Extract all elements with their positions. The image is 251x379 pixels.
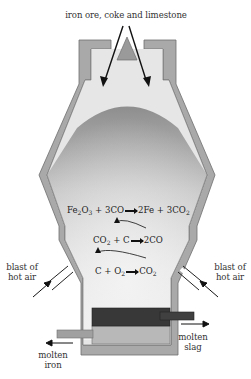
label-line: slag bbox=[178, 342, 208, 352]
reaction-equation-combustion: C + O2CO2 bbox=[95, 266, 157, 276]
iron-tap-pipe bbox=[57, 330, 93, 338]
top-input-label: iron ore, coke and limestone bbox=[64, 10, 188, 20]
molten-iron-label: molten iron bbox=[38, 350, 68, 370]
reaction-equation-co-formation: CO2 + C2CO bbox=[93, 235, 163, 245]
left-blast-label: blast of hot air bbox=[2, 262, 42, 282]
label-line: hot air bbox=[2, 272, 42, 282]
reaction-rhs: 2Fe + 3CO2 bbox=[138, 205, 190, 215]
label-line: molten bbox=[178, 332, 208, 342]
reaction-lhs: C + O2 bbox=[95, 266, 125, 276]
reaction-arrow-icon bbox=[131, 240, 143, 242]
reaction-rhs: CO2 bbox=[139, 266, 156, 276]
label-line: iron bbox=[38, 360, 68, 370]
slag-tap-pipe bbox=[160, 312, 194, 320]
label-line: blast of bbox=[210, 262, 250, 272]
left-tuyere bbox=[45, 266, 73, 290]
reaction-lhs: Fe2O3 + 3CO bbox=[67, 205, 124, 215]
molten-iron-pool bbox=[92, 326, 170, 344]
arrowhead-icon bbox=[46, 340, 52, 346]
label-line: blast of bbox=[2, 262, 42, 272]
molten-slag-label: molten slag bbox=[178, 332, 208, 352]
arrowhead-icon bbox=[203, 321, 209, 327]
right-blast-label: blast of hot air bbox=[210, 262, 250, 282]
reaction-lhs: CO2 + C bbox=[93, 235, 130, 245]
blast-furnace-diagram bbox=[0, 0, 251, 379]
molten-slag-layer bbox=[92, 308, 170, 326]
reaction-equation-reduction: Fe2O3 + 3CO2Fe + 3CO2 bbox=[67, 205, 190, 215]
reaction-arrow-icon bbox=[126, 271, 138, 273]
reaction-rhs: 2CO bbox=[144, 235, 163, 245]
label-line: hot air bbox=[210, 272, 250, 282]
left-air-arrow bbox=[33, 284, 48, 297]
right-air-arrow bbox=[203, 284, 218, 297]
right-tuyere bbox=[178, 266, 206, 290]
label-line: molten bbox=[38, 350, 68, 360]
reaction-arrow-icon bbox=[125, 210, 137, 212]
